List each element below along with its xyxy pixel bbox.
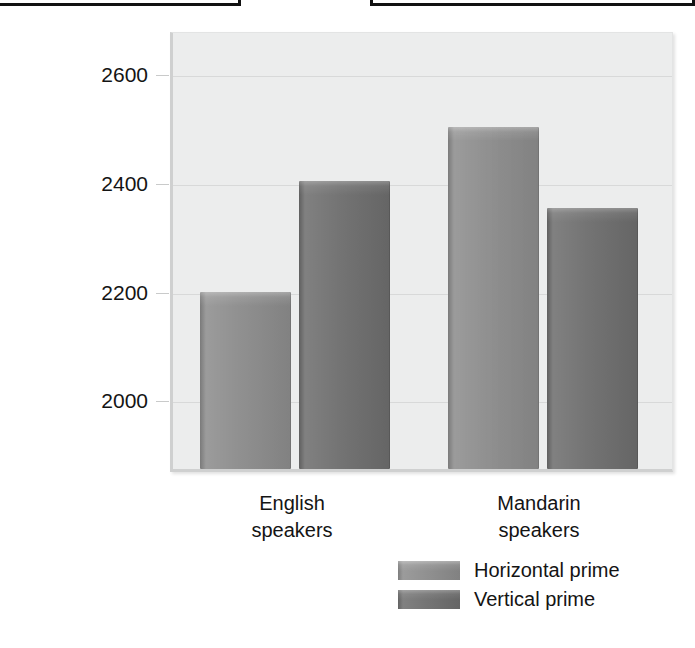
category-label-mandarin-line1: Mandarin bbox=[434, 490, 644, 517]
y-axis-tick-mark bbox=[156, 401, 169, 402]
y-axis-tick-label: 2600 bbox=[58, 63, 148, 87]
category-label-mandarin: Mandarin speakers bbox=[434, 490, 644, 544]
plot-area bbox=[170, 32, 673, 472]
legend-swatch-icon bbox=[398, 561, 460, 580]
legend-label: Horizontal prime bbox=[474, 559, 620, 582]
y-axis-tick-mark bbox=[156, 75, 169, 76]
legend-item[interactable]: Vertical prime bbox=[398, 585, 620, 614]
legend-label: Vertical prime bbox=[474, 588, 595, 611]
chart-legend: Horizontal primeVertical prime bbox=[398, 556, 620, 614]
y-axis-tick-label: 2200 bbox=[58, 281, 148, 305]
gridline bbox=[173, 185, 672, 186]
gridline bbox=[173, 76, 672, 77]
bar bbox=[200, 292, 291, 469]
category-label-english: English speakers bbox=[187, 490, 397, 544]
y-axis-tick-mark bbox=[156, 184, 169, 185]
category-label-english-line1: English bbox=[187, 490, 397, 517]
y-axis-tick-label: 2000 bbox=[58, 389, 148, 413]
y-axis-tick-mark bbox=[156, 293, 169, 294]
category-label-mandarin-line2: speakers bbox=[434, 517, 644, 544]
y-axis-tick-label: 2400 bbox=[58, 172, 148, 196]
bar bbox=[299, 181, 390, 469]
legend-item[interactable]: Horizontal prime bbox=[398, 556, 620, 585]
bar bbox=[547, 208, 638, 469]
category-label-english-line2: speakers bbox=[187, 517, 397, 544]
bar bbox=[448, 127, 539, 469]
legend-swatch-icon bbox=[398, 590, 460, 609]
